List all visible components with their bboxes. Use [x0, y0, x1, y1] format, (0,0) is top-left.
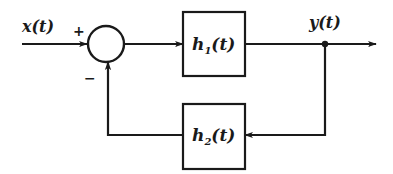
feedback-block-label: h2(t)	[192, 125, 235, 147]
input-label: x(t)	[21, 17, 54, 36]
block-diagram: x(t) + − h1(t) y(t) h2(t)	[0, 0, 393, 174]
minus-sign: −	[84, 70, 96, 86]
forward-block-label: h1(t)	[192, 34, 235, 56]
output-label: y(t)	[308, 13, 341, 32]
summing-junction	[88, 26, 124, 62]
feedback-line-right	[245, 44, 325, 135]
feedback-line-left	[108, 62, 183, 135]
plus-sign: +	[73, 23, 85, 39]
